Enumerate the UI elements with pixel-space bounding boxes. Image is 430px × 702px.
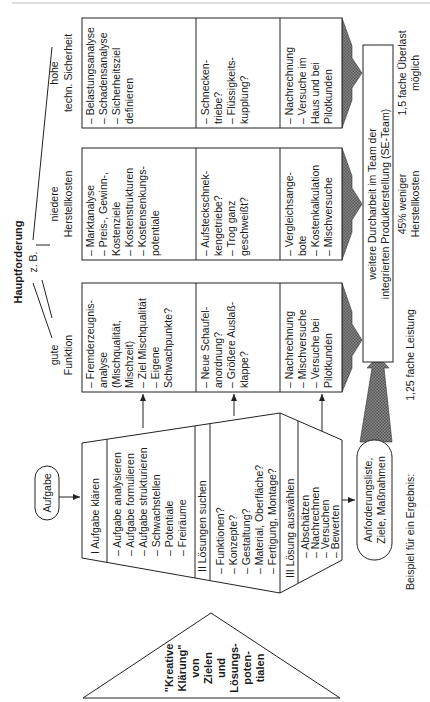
svg-text:– Belastungsanalyse: – Belastungsanalyse [84, 27, 96, 124]
svg-text:– Marktanalyse: – Marktanalyse [84, 185, 96, 256]
result-function: 1,25 fache Leistung [404, 309, 416, 401]
result-cost-l1: 45% weniger [396, 173, 408, 234]
results-row: Beispiel für ein Ergebnis: 1,25 fache Le… [396, 30, 421, 590]
svg-text:Pilotkunden: Pilotkunden [322, 333, 334, 388]
svg-text:– Kostensenkungs-: – Kostensenkungs- [136, 166, 148, 256]
creative-clarification-triangle: "Kreative Klärung" von Zielen und Lösung… [83, 613, 340, 698]
svg-text:– Material, Oberfläche?: – Material, Oberfläche? [253, 465, 265, 574]
svg-text:– Flüssigkeits-: – Flüssigkeits- [225, 56, 237, 124]
svg-text:– Aufsteckschnek-: – Aufsteckschnek- [199, 170, 211, 256]
svg-text:– Aufgabe formulieren: – Aufgabe formulieren [124, 453, 136, 556]
heading-safety-l1: hohe [48, 61, 60, 85]
svg-text:weitere Durcharbeit im Team de: weitere Durcharbeit im Team der [366, 128, 378, 281]
heading-function-l2: Funktion [62, 335, 74, 375]
svg-text:Mischzeit): Mischzeit) [123, 341, 135, 388]
svg-text:Zielen: Zielen [202, 652, 214, 684]
svg-text:Aufgabe: Aufgabe [41, 473, 53, 512]
heading-cost-l1: niedere [48, 186, 60, 221]
svg-text:anordnung?: anordnung? [212, 332, 224, 388]
result-safety-l2: möglich [409, 55, 421, 91]
svg-text:Ziele, Maßnahmen: Ziele, Maßnahmen [375, 456, 387, 544]
process-funnel: I Aufgabe klären – Aufgabe analysieren –… [82, 413, 342, 593]
result-cost-l2: Herstellkosten [409, 171, 421, 238]
svg-text:integrierten Produkterstellung: integrierten Produkterstellung (SE-Team) [379, 109, 391, 299]
cost-selection-list: – Vergleichsange- bote – Kostenkalkulati… [283, 165, 334, 256]
svg-text:und: und [215, 658, 227, 678]
requirement-tree: Hauptforderung z. B. [12, 47, 52, 338]
svg-text:– Mischversuche: – Mischversuche [296, 309, 308, 388]
svg-text:poten-: poten- [241, 651, 253, 685]
svg-text:– Versuche bei: – Versuche bei [309, 319, 321, 388]
svg-text:Schwachpunkte?: Schwachpunkte? [162, 308, 174, 388]
svg-text:Haus und bei: Haus und bei [309, 62, 321, 124]
svg-text:– Größere Auslaß-: – Größere Auslaß- [225, 301, 237, 388]
column-cost: – Marktanalyse – Preis-, Gewinn-, Kosten… [82, 148, 342, 260]
svg-text:– Freiräume: – Freiräume [176, 499, 188, 556]
svg-text:kengetriebe?: kengetriebe? [212, 195, 224, 256]
svg-text:– Preis-, Gewinn-,: – Preis-, Gewinn-, [97, 172, 109, 256]
svg-text:– Potentiale: – Potentiale [163, 500, 175, 556]
heading-safety-l2: techn. Sicherheit [62, 34, 74, 112]
svg-text:– Bewerten: – Bewerten [329, 505, 341, 558]
result-safety-l1: 1,5 fache Überlast [396, 30, 408, 115]
svg-text:– Aufgabe analysieren: – Aufgabe analysieren [111, 452, 123, 556]
svg-text:Klärung": Klärung" [176, 645, 188, 692]
svg-text:– Trog ganz: – Trog ganz [225, 201, 237, 256]
svg-text:tialen: tialen [254, 653, 266, 682]
svg-text:– Schwachstellen: – Schwachstellen [150, 474, 162, 556]
svg-text:– Konzepte?: – Konzepte? [227, 515, 239, 574]
se-team-box: weitere Durcharbeit im Team der integrie… [363, 45, 393, 362]
svg-text:von: von [189, 658, 201, 678]
svg-text:Anforderungsliste,: Anforderungsliste, [362, 458, 374, 543]
column-arrows [342, 18, 362, 392]
svg-text:Lösungs-: Lösungs- [228, 643, 240, 693]
requirements-output-node: Anforderungsliste, Ziele, Maßnahmen [342, 356, 392, 560]
svg-text:– Mischversuche: – Mischversuche [322, 177, 334, 256]
task-start-node: Aufgabe [35, 466, 80, 520]
heading-cost-l2: Herstellkosten [62, 171, 74, 238]
svg-text:– Neue Schaufel-: – Neue Schaufel- [199, 306, 211, 388]
svg-text:– Nachrechnung: – Nachrechnung [283, 311, 295, 388]
svg-text:– Kostenstrukturen: – Kostenstrukturen [123, 168, 135, 256]
svg-text:(Mischqualität,: (Mischqualität, [110, 320, 122, 388]
svg-text:II Lösungen suchen: II Lösungen suchen [196, 480, 208, 572]
result-label: Beispiel für ein Ergebnis: [404, 474, 416, 590]
column-safety: – Belastungsanalyse – Schadensanalyse – … [82, 18, 342, 128]
svg-text:– Nachrechnung: – Nachrechnung [283, 47, 295, 124]
svg-text:– Aufgabe strukturieren: – Aufgabe strukturieren [137, 447, 149, 556]
svg-text:– Ziel Mischqualität: – Ziel Mischqualität [136, 298, 148, 388]
svg-text:III Lösung auswählen: III Lösung auswählen [284, 479, 296, 578]
svg-text:– Gestaltung?: – Gestaltung? [240, 508, 252, 574]
svg-text:potentiale: potentiale [149, 210, 161, 256]
svg-text:definieren: definieren [123, 78, 135, 124]
svg-text:– Versuche im: – Versuche im [296, 57, 308, 124]
svg-text:"Kreative: "Kreative [163, 644, 175, 693]
svg-text:I Aufgabe klären: I Aufgabe klären [89, 478, 101, 554]
svg-text:Kostenziele: Kostenziele [110, 202, 122, 256]
svg-text:analyse: analyse [97, 352, 109, 388]
svg-text:– Schadensanalyse: – Schadensanalyse [97, 32, 109, 124]
svg-text:– Funktionen?: – Funktionen? [214, 507, 226, 574]
svg-text:klappe?: klappe? [238, 351, 250, 388]
svg-text:– Kostenkalkulation: – Kostenkalkulation [309, 165, 321, 256]
svg-text:Pilotkunden: Pilotkunden [322, 69, 334, 124]
svg-text:– Eigene: – Eigene [149, 346, 161, 388]
column-function: – Fremderzeugnis- analyse (Mischqualität… [82, 283, 342, 392]
main-requirement-title: Hauptforderung [12, 220, 24, 303]
diagram-canvas: Hauptforderung z. B. hohe techn. Sicherh… [0, 0, 430, 702]
svg-text:– Schnecken-: – Schnecken- [199, 59, 211, 124]
column-headings: hohe techn. Sicherheit niedere Herstellk… [48, 34, 74, 375]
svg-text:kupplung?: kupplung? [238, 75, 250, 124]
svg-text:– Vergleichsange-: – Vergleichsange- [283, 171, 295, 256]
svg-text:– Sicherheitsziel: – Sicherheitsziel [110, 48, 122, 124]
svg-text:geschweißt?: geschweißt? [238, 197, 250, 256]
svg-text:triebe?: triebe? [212, 92, 224, 124]
svg-text:– Fremderzeugnis-: – Fremderzeugnis- [84, 299, 96, 388]
svg-text:– Fertigung, Montage?: – Fertigung, Montage? [266, 468, 278, 574]
heading-function-l1: gute [48, 345, 60, 366]
svg-text:bote: bote [296, 235, 308, 256]
main-requirement-subtitle: z. B. [27, 251, 39, 272]
